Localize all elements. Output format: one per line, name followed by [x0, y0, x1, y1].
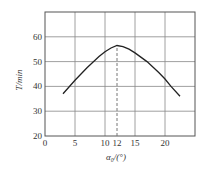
- y-axis-label: T/min: [14, 69, 24, 91]
- y-tick-label: 30: [33, 106, 43, 116]
- y-tick-label: 40: [33, 81, 43, 91]
- chart: 2030405060 0510121520 T/min α₀/(°): [0, 0, 212, 169]
- x-tick-label: 5: [73, 138, 78, 148]
- y-axis-ticks: 2030405060: [33, 32, 43, 141]
- plot-frame: [45, 12, 195, 136]
- x-axis-ticks: 0510121520: [43, 138, 170, 148]
- x-tick-label: 12: [113, 138, 122, 148]
- x-tick-label: 20: [161, 138, 171, 148]
- y-tick-label: 60: [33, 32, 43, 42]
- data-curve: [63, 46, 180, 97]
- x-tick-label: 10: [101, 138, 111, 148]
- x-tick-label: 15: [131, 138, 141, 148]
- y-tick-label: 20: [33, 131, 43, 141]
- x-tick-label: 0: [43, 138, 48, 148]
- grid-lines: [45, 12, 195, 136]
- x-axis-label: α₀/(°): [106, 152, 126, 162]
- y-tick-label: 50: [33, 57, 43, 67]
